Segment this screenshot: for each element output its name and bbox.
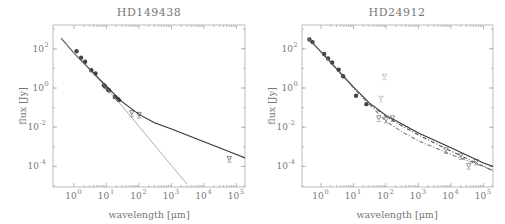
svg-text:1: 1 [110,188,114,196]
x-axis-label: wavelength [μm] [108,209,189,220]
plot-area [61,38,246,184]
y-tick-label: 10 [28,122,40,132]
y-tick-label: 10 [33,83,45,93]
x-tick-label: 10 [195,191,207,201]
upper-limit-marker [130,111,134,115]
x-axis: 100101102103104105 [65,25,244,201]
plot-frame [302,25,493,187]
y-axis-label: flux [Jy] [266,87,277,124]
panel-hd24912: HD24912 100101102103104105 10210010-210-… [266,6,493,220]
model-curve [308,38,493,171]
x-tick-label: 10 [65,191,77,201]
figure: HD149438 100101102103104105 10210010-210… [0,0,505,224]
x-tick-label: 10 [98,191,110,201]
model-curve [61,38,187,184]
x-tick-label: 10 [163,191,175,201]
svg-text:2: 2 [143,188,147,196]
y-tick-label: 10 [33,44,45,54]
upper-limit-marker [466,164,470,168]
svg-text:2: 2 [294,41,298,49]
x-tick-label: 10 [312,191,324,201]
x-axis-label: wavelength [μm] [356,209,437,220]
svg-text:0: 0 [325,188,329,196]
upper-limit-marker [377,116,381,120]
x-tick-label: 10 [442,191,454,201]
svg-text:-2: -2 [289,119,295,127]
y-axis: 10210010-210-4 [28,29,245,186]
y-tick-label: 10 [277,161,289,171]
panel-title: HD24912 [369,6,426,19]
upper-limit-marker [227,157,231,161]
upper-limit-marker [379,96,383,100]
y-tick-label: 10 [28,161,40,171]
svg-text:-4: -4 [40,158,46,166]
y-axis-label: flux [Jy] [17,87,28,124]
svg-text:1: 1 [357,188,361,196]
panel-hd149438: HD149438 100101102103104105 10210010-210… [17,6,246,220]
svg-text:0: 0 [294,80,298,88]
data-point [354,94,358,98]
x-tick-label: 10 [345,191,357,201]
y-tick-label: 10 [277,122,289,132]
svg-text:-2: -2 [40,119,46,127]
x-tick-label: 10 [228,191,240,201]
x-tick-label: 10 [130,191,142,201]
upper-limit-marker [382,74,386,78]
model-curve [308,38,493,166]
svg-text:-4: -4 [289,158,295,166]
svg-text:5: 5 [240,188,244,196]
svg-text:0: 0 [78,188,82,196]
svg-text:4: 4 [455,188,459,196]
y-tick-label: 10 [282,83,294,93]
svg-text:5: 5 [487,188,491,196]
y-tick-label: 10 [282,44,294,54]
svg-text:3: 3 [422,188,426,196]
x-tick-label: 10 [475,191,487,201]
svg-text:2: 2 [45,41,49,49]
plot-frame [53,25,245,187]
y-axis: 10210010-210-4 [277,29,493,186]
svg-text:2: 2 [390,188,394,196]
x-tick-label: 10 [410,191,422,201]
svg-text:0: 0 [45,80,49,88]
model-curve [61,38,246,158]
panel-title: HD149438 [117,6,181,19]
svg-text:4: 4 [208,188,212,196]
data-point [74,49,78,53]
model-curve [308,38,493,171]
x-tick-label: 10 [377,191,389,201]
plot-area [307,37,493,170]
svg-text:3: 3 [175,188,179,196]
data-point [364,102,368,106]
x-axis: 100101102103104105 [312,25,491,201]
